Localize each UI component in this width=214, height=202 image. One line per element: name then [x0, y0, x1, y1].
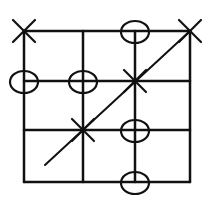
diagonal-line: [45, 31, 190, 165]
diagonal-stroke: [45, 31, 190, 165]
grid-diagram: [0, 0, 214, 202]
